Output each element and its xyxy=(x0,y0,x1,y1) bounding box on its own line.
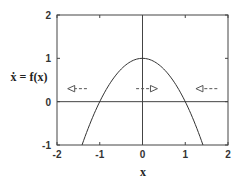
x-tick-label: -1 xyxy=(95,149,104,160)
x-axis-label: x xyxy=(140,165,146,179)
arrow-right-icon xyxy=(150,85,157,91)
reference-lines xyxy=(57,15,228,145)
y-axis-label: ẋ = f(x) xyxy=(11,70,48,84)
y-tick-label: 0 xyxy=(45,97,51,108)
x-tick-label: 0 xyxy=(140,149,146,160)
y-tick-label: 2 xyxy=(45,10,51,21)
x-tick-label: 2 xyxy=(225,149,231,160)
phase-line-chart: -2-1012-1012 x ẋ = f(x) xyxy=(0,0,245,180)
x-tick-label: -2 xyxy=(53,149,62,160)
y-tick-label: 1 xyxy=(45,53,51,64)
arrow-left-icon xyxy=(68,85,75,91)
x-tick-label: 1 xyxy=(182,149,188,160)
arrow-left-icon xyxy=(196,85,203,91)
y-tick-label: -1 xyxy=(42,140,51,151)
